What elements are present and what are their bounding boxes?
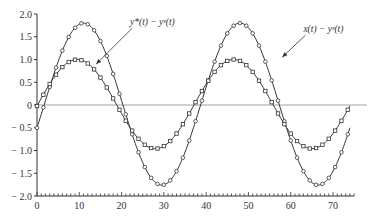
x-tick-label: 40 xyxy=(201,200,211,211)
x-tick-label: 50 xyxy=(243,200,253,211)
y-tick-label: − 2.0 xyxy=(11,191,32,202)
x-tick-label: 10 xyxy=(74,200,84,211)
y-tick-label: 0 xyxy=(27,100,32,111)
curve-annotation: x(t) − yᵉ(t) xyxy=(282,24,343,57)
series-curves xyxy=(35,21,350,186)
x-tick-label: 20 xyxy=(117,200,127,211)
y-tick-label: 1.0 xyxy=(20,54,33,65)
x-tick-label: 60 xyxy=(286,200,296,211)
y-tick-label: 2.0 xyxy=(20,9,33,20)
svg-text:x(t) − yᵉ(t): x(t) − yᵉ(t) xyxy=(302,24,343,35)
x-tick-label: 30 xyxy=(159,200,169,211)
x-tick-label: 0 xyxy=(35,200,40,211)
series-x-minus-ye xyxy=(35,21,350,186)
y-tick-label: − 0.5 xyxy=(11,122,32,133)
x-tick-label: 70 xyxy=(328,200,338,211)
y-tick-label: 1.5 xyxy=(20,31,33,42)
x-axis: 010203040506070 xyxy=(35,192,355,211)
svg-text:y*(t) − yᵉ(t): y*(t) − yᵉ(t) xyxy=(129,17,175,28)
line-chart: 2.01.51.00.50− 0.5− 1.0− 1.5− 2.0 010203… xyxy=(0,0,384,221)
y-tick-label: − 1.5 xyxy=(11,168,32,179)
y-tick-label: 0.5 xyxy=(20,77,33,88)
annotations: y*(t) − yᵉ(t)x(t) − yᵉ(t) xyxy=(96,17,343,64)
y-axis: 2.01.51.00.50− 0.5− 1.0− 1.5− 2.0 xyxy=(11,9,37,202)
y-tick-label: − 1.0 xyxy=(11,145,32,156)
series-ystar-minus-ye xyxy=(35,58,350,150)
